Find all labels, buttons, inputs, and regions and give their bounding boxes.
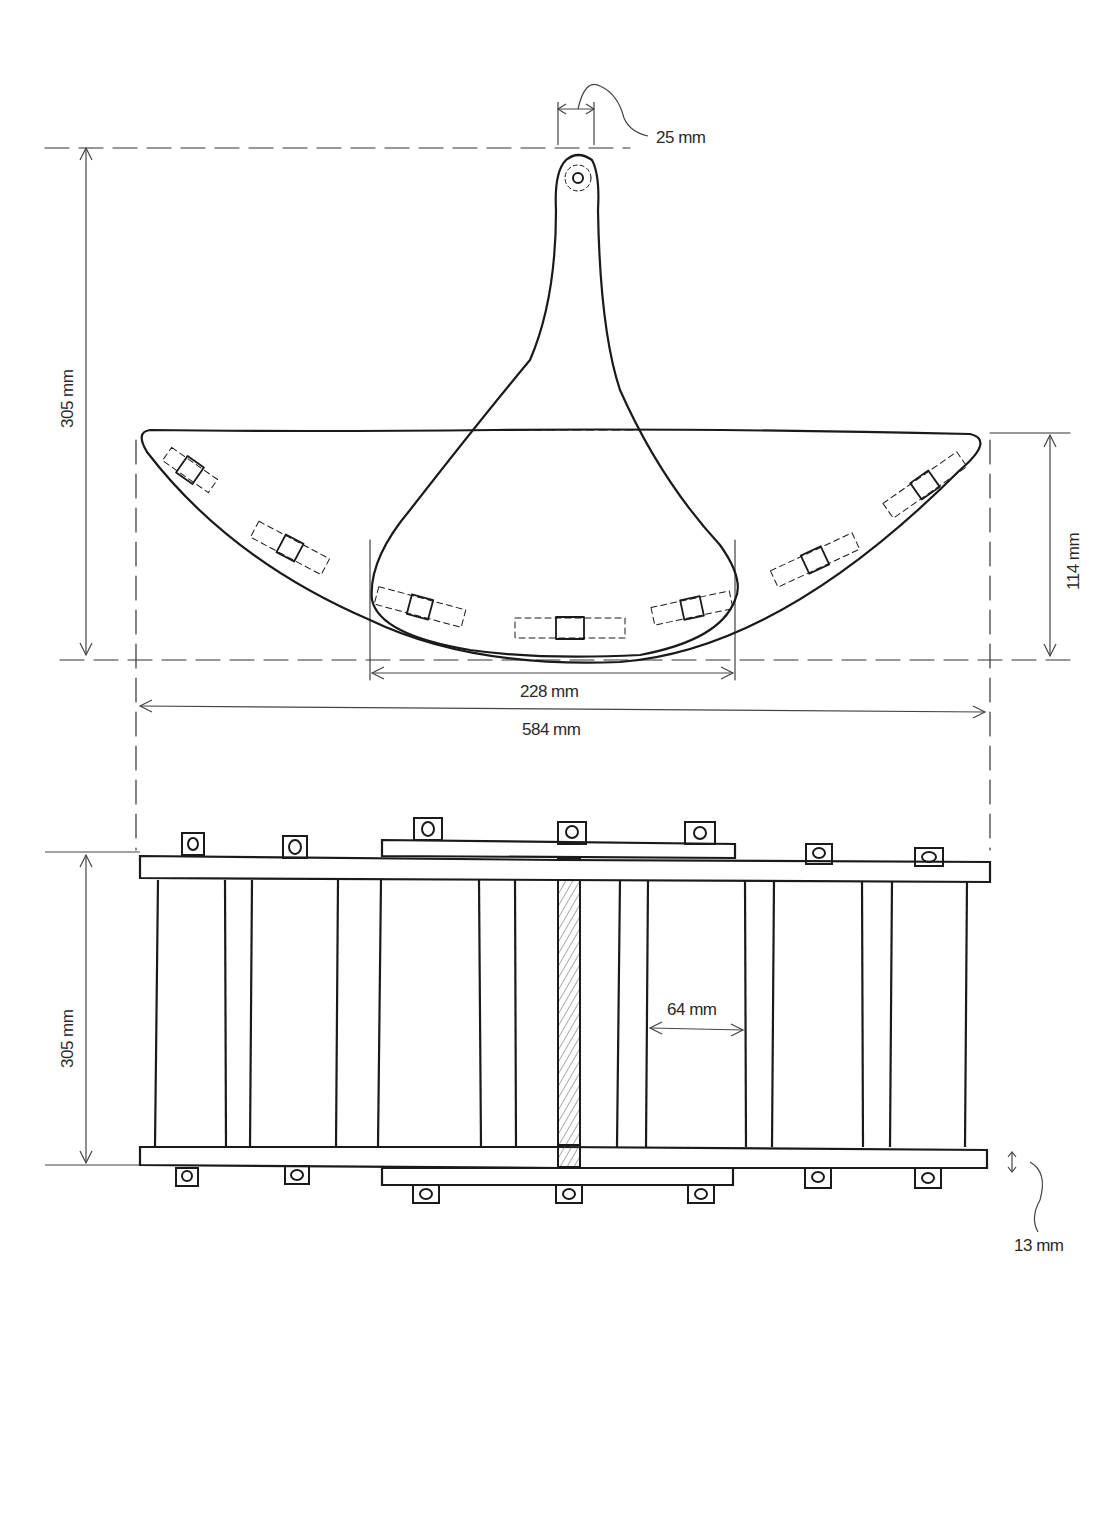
- side-view-dimensions: [80, 84, 1056, 718]
- wing-shape: [142, 430, 981, 663]
- base-width-label: 228 mm: [520, 682, 578, 702]
- bottom-rail-lower: [382, 1168, 733, 1185]
- slat-gap-label: 64 mm: [667, 1000, 716, 1020]
- clip-brackets: [161, 446, 967, 639]
- top-view: [45, 818, 990, 1203]
- side-view: [45, 148, 1070, 850]
- handle-stem: [372, 155, 738, 657]
- reference-lines: [45, 148, 1070, 850]
- rail-thickness-label: 13 mm: [1014, 1236, 1063, 1256]
- top-rail: [140, 856, 990, 882]
- side-height-label: 305 mm: [58, 370, 78, 428]
- wing-height-label: 114 mm: [1064, 533, 1084, 590]
- drawing-canvas: [0, 0, 1107, 1520]
- handle-width-label: 25 mm: [656, 128, 705, 148]
- total-width-label: 584 mm: [522, 720, 580, 740]
- center-hatched-bar: [558, 858, 580, 1166]
- top-view-depth-label: 305 mm: [58, 1010, 78, 1068]
